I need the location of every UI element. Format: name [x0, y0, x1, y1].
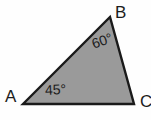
vertex-label-a: A [5, 88, 16, 105]
vertex-label-c: C [140, 93, 151, 110]
triangle-shape [23, 17, 134, 104]
geometry-figure: A B C 45° 60° [0, 0, 151, 120]
vertex-label-b: B [115, 4, 126, 21]
angle-label-at-a: 45° [45, 82, 67, 97]
triangle-diagram-svg [0, 0, 151, 120]
